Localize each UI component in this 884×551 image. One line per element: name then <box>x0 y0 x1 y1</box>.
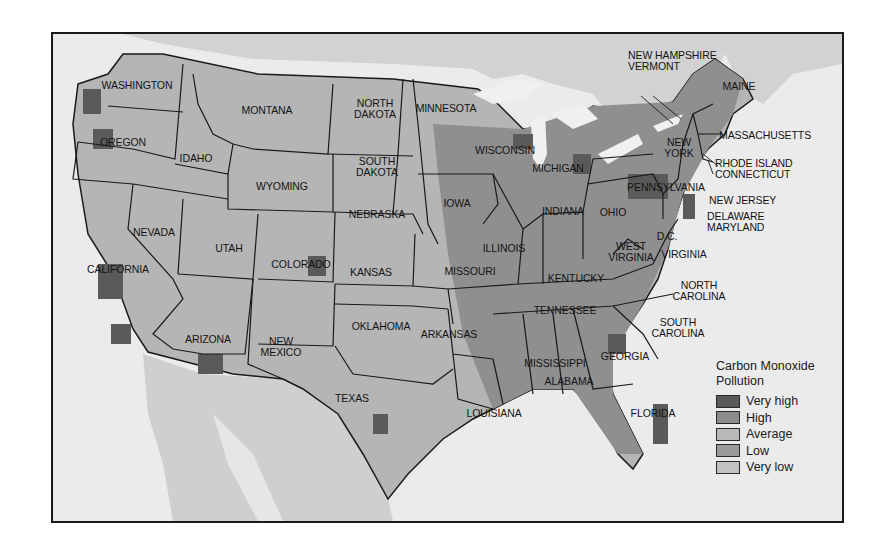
legend-label: Low <box>746 444 769 458</box>
state-label-oklahoma: OKLAHOMA <box>352 321 411 332</box>
legend-label: Very low <box>746 460 793 474</box>
state-label-kentucky: KENTUCKY <box>548 273 604 284</box>
state-label-north-carolina: NORTH CAROLINA <box>673 280 726 302</box>
state-label-colorado: COLORADO <box>271 259 330 270</box>
state-label-north-dakota: NORTH DAKOTA <box>354 98 396 120</box>
legend-swatch-low <box>716 444 740 457</box>
callout-label-new-jersey: NEW JERSEY <box>709 195 776 206</box>
callout-label-rhode-island-connecticut: RHODE ISLAND CONNECTICUT <box>715 158 793 180</box>
state-label-arkansas: ARKANSAS <box>421 329 477 340</box>
state-label-michigan: MICHIGAN <box>532 163 584 174</box>
legend-item-very-low: Very low <box>716 459 836 476</box>
state-label-nebraska: NEBRASKA <box>349 209 405 220</box>
state-label-tennessee: TENNESSEE <box>534 305 597 316</box>
state-label-kansas: KANSAS <box>350 267 392 278</box>
callout-label-massachusetts: MASSACHUSETTS <box>719 130 811 141</box>
legend-swatch-average <box>716 428 740 441</box>
legend-item-low: Low <box>716 443 836 460</box>
legend-swatch-very-low <box>716 461 740 474</box>
state-label-ohio: OHIO <box>600 207 626 218</box>
state-label-arizona: ARIZONA <box>185 334 231 345</box>
state-label-louisiana: LOUISIANA <box>466 408 521 419</box>
state-label-mississippi: MISSISSIPPI <box>524 358 585 369</box>
state-label-south-carolina: SOUTH CAROLINA <box>652 317 705 339</box>
state-label-new-york: NEW YORK <box>664 137 693 159</box>
state-label-wyoming: WYOMING <box>256 181 308 192</box>
state-label-alabama: ALABAMA <box>545 376 594 387</box>
state-label-indiana: INDIANA <box>542 206 584 217</box>
callout-label-new-hampshire-vermont: NEW HAMPSHIRE VERMONT <box>628 50 717 72</box>
state-label-texas: TEXAS <box>335 393 369 404</box>
state-label-oregon: OREGON <box>100 137 146 148</box>
state-label-florida: FLORIDA <box>631 408 676 419</box>
state-label-west-virginia: WEST VIRGINIA <box>608 241 653 263</box>
state-label-d-c: D.C. <box>657 231 678 242</box>
legend-label: High <box>746 411 772 425</box>
state-label-virginia: VIRGINIA <box>661 249 706 260</box>
state-label-wisconsin: WISCONSIN <box>475 145 535 156</box>
state-label-iowa: IOWA <box>443 198 470 209</box>
state-label-nevada: NEVADA <box>133 227 175 238</box>
state-label-maine: MAINE <box>723 81 756 92</box>
legend-label: Average <box>746 427 792 441</box>
state-label-georgia: GEORGIA <box>601 351 649 362</box>
state-label-utah: UTAH <box>215 243 242 254</box>
state-label-montana: MONTANA <box>241 105 292 116</box>
legend-item-average: Average <box>716 426 836 443</box>
legend-swatch-high <box>716 411 740 424</box>
legend-swatch-very-high <box>716 395 740 408</box>
state-label-washington: WASHINGTON <box>102 80 173 91</box>
state-label-idaho: IDAHO <box>180 153 213 164</box>
state-label-pennsylvania: PENNSYLVANIA <box>627 182 705 193</box>
state-label-new-mexico: NEW MEXICO <box>261 336 302 358</box>
legend-title: Carbon Monoxide Pollution <box>716 359 836 389</box>
legend-item-high: High <box>716 410 836 427</box>
state-label-california: CALIFORNIA <box>87 264 149 275</box>
carbon-monoxide-map: WASHINGTONOREGONIDAHOMONTANAWYOMINGNORTH… <box>51 32 844 523</box>
legend: Carbon Monoxide Pollution Very high High… <box>716 359 836 476</box>
state-label-minnesota: MINNESOTA <box>416 103 477 114</box>
state-label-south-dakota: SOUTH DAKOTA <box>356 156 398 178</box>
legend-items: Very high High Average Low Very low <box>716 393 836 476</box>
callout-label-delaware-maryland: DELAWARE MARYLAND <box>707 211 764 233</box>
state-label-illinois: ILLINOIS <box>483 243 525 254</box>
state-label-missouri: MISSOURI <box>444 266 495 277</box>
legend-label: Very high <box>746 394 798 408</box>
legend-item-very-high: Very high <box>716 393 836 410</box>
